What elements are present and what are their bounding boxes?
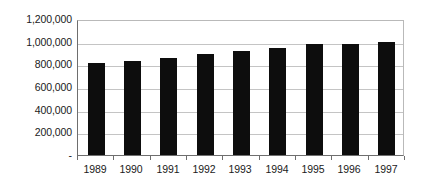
- x-tick: [186, 156, 187, 160]
- bar: [378, 42, 395, 155]
- x-tick: [404, 156, 405, 160]
- bar: [306, 44, 323, 155]
- x-tick-label: 1997: [368, 163, 404, 175]
- x-tick-label: 1995: [295, 163, 331, 175]
- bar: [88, 63, 105, 155]
- x-tick-label: 1992: [186, 163, 222, 175]
- y-tick-label: 800,000: [0, 59, 72, 70]
- y-tick-label: 600,000: [0, 82, 72, 93]
- bar: [124, 61, 141, 155]
- bar: [342, 44, 359, 155]
- x-axis: 198919901991199219931994199519961997: [77, 163, 404, 183]
- x-axis-ticks: [77, 156, 404, 161]
- x-tick: [222, 156, 223, 160]
- x-tick-label: 1994: [259, 163, 295, 175]
- bar: [233, 51, 250, 155]
- x-tick: [150, 156, 151, 160]
- x-tick: [331, 156, 332, 160]
- x-tick: [295, 156, 296, 160]
- x-tick: [113, 156, 114, 160]
- x-tick: [368, 156, 369, 160]
- bar-chart: 1,200,000 1,000,000 800,000 600,000 400,…: [0, 0, 435, 191]
- x-tick-label: 1991: [150, 163, 186, 175]
- x-tick-label: 1996: [331, 163, 367, 175]
- y-axis: 1,200,000 1,000,000 800,000 600,000 400,…: [0, 0, 72, 191]
- x-tick: [77, 156, 78, 160]
- y-tick-label: -: [0, 150, 72, 161]
- plot-area: [77, 20, 404, 156]
- y-tick-label: 1,000,000: [0, 37, 72, 48]
- x-tick-label: 1993: [222, 163, 258, 175]
- bar: [160, 58, 177, 155]
- bar: [269, 48, 286, 155]
- x-tick-label: 1989: [77, 163, 113, 175]
- x-tick-label: 1990: [113, 163, 149, 175]
- y-tick-label: 400,000: [0, 105, 72, 116]
- y-tick-label: 1,200,000: [0, 14, 72, 25]
- bars-layer: [78, 21, 403, 155]
- bar: [197, 54, 214, 155]
- x-tick: [259, 156, 260, 160]
- y-tick-label: 200,000: [0, 127, 72, 138]
